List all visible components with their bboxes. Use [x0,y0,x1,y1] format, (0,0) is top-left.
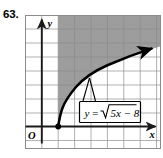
plot-area: y = 5x − 8 y x O [25,15,161,149]
y-axis-label: y [46,18,53,29]
graph-svg: y = 5x − 8 y x O [25,15,161,149]
equation-lhs: y [84,107,90,119]
figure-container: 63. [0,0,163,158]
equation-equals: = [92,107,99,119]
x-axis-label: x [149,129,155,140]
curve-endpoint-dot [55,124,61,130]
origin-label: O [28,130,36,141]
equation-annotation: y = 5x − 8 [84,105,140,119]
exercise-number: 63. [3,9,18,21]
equation-radicand: 5x − 8 [111,107,140,119]
